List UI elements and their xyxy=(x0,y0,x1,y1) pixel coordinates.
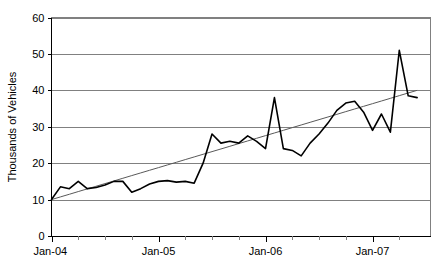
x-axis-tick-labels: Jan-04Jan-05Jan-06Jan-07 xyxy=(34,245,390,257)
y-tick-label: 40 xyxy=(32,84,44,96)
y-tick-label: 10 xyxy=(32,194,44,206)
x-tick-label: Jan-07 xyxy=(356,245,390,257)
y-tick-label: 50 xyxy=(32,48,44,60)
y-tick-label: 60 xyxy=(32,12,44,24)
x-tick-label: Jan-06 xyxy=(249,245,283,257)
y-axis-title: Thousands of Vehicles xyxy=(6,71,18,182)
y-tick-label: 20 xyxy=(32,157,44,169)
x-tick-label: Jan-04 xyxy=(34,245,68,257)
y-tick-label: 30 xyxy=(32,121,44,133)
vehicles-series-line xyxy=(52,50,418,199)
x-tick-label: Jan-05 xyxy=(142,245,176,257)
y-axis-tick-labels: 0102030405060 xyxy=(32,12,51,243)
trendline-series xyxy=(52,90,418,199)
y-tick-label: 0 xyxy=(38,230,44,242)
line-chart: 0102030405060 Jan-04Jan-05Jan-06Jan-07 T… xyxy=(0,0,444,271)
chart-container: 0102030405060 Jan-04Jan-05Jan-06Jan-07 T… xyxy=(0,0,444,271)
